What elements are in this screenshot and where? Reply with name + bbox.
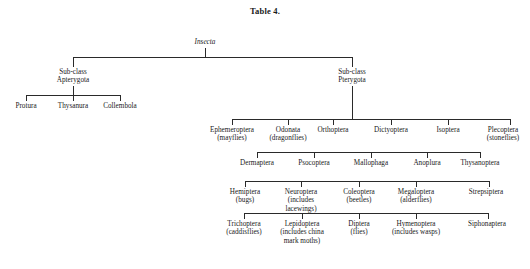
node-order-megaloptera: Megaloptera (alderflies): [398, 188, 434, 205]
order-psocoptera-label: Psocoptera: [298, 159, 330, 167]
connector-row4-drop-2: [302, 213, 303, 219]
node-order-dermaptera: Dermaptera: [240, 159, 274, 167]
node-order-diptera: Diptera (flies): [348, 220, 370, 237]
order-lepidoptera-common: (includes china mark moths): [273, 228, 331, 245]
order-coleoptera-label: Coleoptera: [343, 188, 375, 196]
connector-row4-drop-3: [359, 213, 360, 219]
connector-row2-drop-3: [371, 152, 372, 158]
node-order-orthoptera: Orthoptera: [317, 126, 348, 134]
order-odonata-label: Odonata: [269, 126, 306, 134]
node-order-thysanura: Thysanura: [58, 102, 88, 110]
connector-row1-drop-1: [232, 119, 233, 125]
node-order-plecoptera: Plecoptera (stoneflies): [487, 126, 519, 143]
connector-row2-bus: [257, 152, 480, 153]
connector-row4-drop-4: [416, 213, 417, 219]
connector-apterygota-trunk: [73, 86, 74, 95]
node-order-ephemeroptera: Ephemeroptera (mayflies): [210, 126, 254, 143]
node-insecta: Insecta: [195, 38, 216, 46]
connector-protura-drop: [26, 95, 27, 101]
order-trichoptera-common: (caddisflies): [226, 228, 262, 236]
connector-pterygota-trunk: [352, 86, 353, 119]
connector-row1-drop-6: [510, 119, 511, 125]
order-hemiptera-common: (bugs): [230, 196, 260, 204]
order-isoptera-label: Isoptera: [436, 126, 459, 134]
node-insecta-label: Insecta: [195, 38, 216, 46]
connector-insecta-trunk: [205, 48, 206, 57]
subclass-apterygota-line1: Sub-class: [57, 68, 89, 76]
order-hymenoptera-label: Hymenoptera: [387, 220, 445, 228]
order-megaloptera-common: (alderflies): [398, 196, 434, 204]
connector-row1-drop-2: [288, 119, 289, 125]
node-order-lepidoptera: Lepidoptera (includes china mark moths): [273, 220, 331, 245]
order-plecoptera-common: (stoneflies): [487, 134, 519, 142]
connector-row1-drop-4: [391, 119, 392, 125]
node-order-siphonaptera: Siphonaptera: [468, 220, 506, 228]
node-order-odonata: Odonata (dragonflies): [269, 126, 306, 143]
order-diptera-common: (flies): [348, 228, 370, 236]
connector-apterygota-drop: [73, 57, 74, 67]
connector-row4-drop-1: [244, 213, 245, 219]
node-order-trichoptera: Trichoptera (caddisflies): [226, 220, 262, 237]
connector-collembola-drop: [120, 95, 121, 101]
node-order-hymenoptera: Hymenoptera (includes wasps): [387, 220, 445, 237]
order-hymenoptera-common: (includes wasps): [387, 228, 445, 236]
node-order-strepsiptera: Strepsiptera: [469, 188, 503, 196]
node-subclass-apterygota: Sub-class Apterygota: [57, 68, 89, 85]
connector-row1-bus: [232, 119, 510, 120]
node-order-collembola: Collembola: [103, 102, 137, 110]
connector-row3-drop-5: [489, 181, 490, 187]
connector-row2-drop-4: [427, 152, 428, 158]
node-subclass-pterygota: Sub-class Pterygota: [338, 68, 366, 85]
order-dermaptera-label: Dermaptera: [240, 159, 274, 167]
connector-thysanura-drop: [73, 95, 74, 101]
order-lepidoptera-label: Lepidoptera: [273, 220, 331, 228]
order-neuroptera-label: Neuroptera: [272, 188, 330, 196]
node-order-neuroptera: Neuroptera (includes lacewings): [272, 188, 330, 213]
connector-row2-drop-2: [314, 152, 315, 158]
order-neuroptera-common: (includes lacewings): [272, 196, 330, 213]
node-order-psocoptera: Psocoptera: [298, 159, 330, 167]
node-order-mallophaga: Mallophaga: [354, 159, 388, 167]
connector-pterygota-drop: [352, 57, 353, 67]
order-diptera-label: Diptera: [348, 220, 370, 228]
node-order-protura: Protura: [15, 102, 36, 110]
connector-row3-drop-4: [416, 181, 417, 187]
subclass-pterygota-line2: Pterygota: [338, 76, 366, 84]
node-order-dictyoptera: Dictyoptera: [374, 126, 408, 134]
node-order-coleoptera: Coleoptera (beetles): [343, 188, 375, 205]
order-ephemeroptera-label: Ephemeroptera: [210, 126, 254, 134]
node-order-thysanoptera: Thysanoptera: [460, 159, 499, 167]
order-trichoptera-label: Trichoptera: [226, 220, 262, 228]
order-orthoptera-label: Orthoptera: [317, 126, 348, 134]
connector-row1-drop-3: [333, 119, 334, 125]
order-thysanoptera-label: Thysanoptera: [460, 159, 499, 167]
connector-insecta-bus: [73, 57, 352, 58]
order-strepsiptera-label: Strepsiptera: [469, 188, 503, 196]
order-ephemeroptera-common: (mayflies): [210, 134, 254, 142]
taxonomy-diagram: Table 4. Insecta Sub-class Apterygota Pr…: [0, 0, 530, 269]
connector-row4-bus: [244, 213, 488, 214]
connector-row3-drop-2: [301, 181, 302, 187]
order-collembola-label: Collembola: [103, 102, 137, 110]
order-plecoptera-label: Plecoptera: [487, 126, 519, 134]
connector-row2-drop-5: [480, 152, 481, 158]
connector-row4-drop-5: [488, 213, 489, 219]
order-coleoptera-common: (beetles): [343, 196, 375, 204]
page-title: Table 4.: [0, 6, 530, 16]
order-megaloptera-label: Megaloptera: [398, 188, 434, 196]
node-order-anoplura: Anoplura: [413, 159, 440, 167]
node-order-isoptera: Isoptera: [436, 126, 459, 134]
subclass-pterygota-line1: Sub-class: [338, 68, 366, 76]
order-odonata-common: (dragonflies): [269, 134, 306, 142]
subclass-apterygota-line2: Apterygota: [57, 76, 89, 84]
order-mallophaga-label: Mallophaga: [354, 159, 388, 167]
connector-row3-bus: [245, 181, 489, 182]
connector-row2-drop-1: [257, 152, 258, 158]
order-anoplura-label: Anoplura: [413, 159, 440, 167]
connector-row3-drop-3: [359, 181, 360, 187]
order-hemiptera-label: Hemiptera: [230, 188, 260, 196]
order-thysanura-label: Thysanura: [58, 102, 88, 110]
order-dictyoptera-label: Dictyoptera: [374, 126, 408, 134]
order-siphonaptera-label: Siphonaptera: [468, 220, 506, 228]
connector-row1-drop-5: [448, 119, 449, 125]
